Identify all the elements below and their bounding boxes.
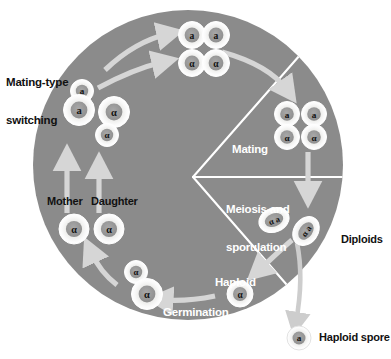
svg-text:a: a <box>312 110 317 120</box>
label-haploid-spore-legend: Haploid spore <box>319 331 390 343</box>
label-diploids: Diploids <box>341 233 383 245</box>
svg-text:α: α <box>104 130 109 140</box>
cell-pair1-alpha: α <box>275 125 300 150</box>
cell-mother: α <box>59 214 89 244</box>
svg-text:α: α <box>71 224 77 235</box>
label-haploid-spore-inner-line1: Haploid <box>215 276 256 289</box>
svg-text:α: α <box>284 133 290 143</box>
arrow-diploid-to-legend-spore <box>296 243 300 322</box>
label-mating-type-switching: Mating-type switching <box>6 50 68 140</box>
cell-germ-mother-alpha: α <box>132 279 163 310</box>
cell-pair1-a: a <box>275 102 300 127</box>
cell-grid-alpha-left: α <box>179 50 206 77</box>
cell-daughter: α <box>94 214 124 244</box>
cell-grid-a-left: a <box>179 22 206 49</box>
svg-text:a: a <box>285 110 290 120</box>
svg-text:α: α <box>311 133 317 143</box>
svg-text:α: α <box>189 58 195 69</box>
cell-bud-alpha-bottom: α <box>96 124 119 147</box>
label-mating-type-switching-line2: switching <box>6 114 68 127</box>
svg-text:α: α <box>144 289 150 300</box>
cell-legend-haploid-spore: a <box>287 326 311 350</box>
label-meiosis-line1: Meiosis and <box>226 203 290 216</box>
cell-grid-alpha-right: α <box>203 50 230 77</box>
svg-text:α: α <box>111 107 117 118</box>
cell-pair2-a: a <box>302 102 327 127</box>
label-haploid-spore-inner: Haploid spore <box>215 250 256 340</box>
label-mating-type-switching-line1: Mating-type <box>6 76 68 89</box>
svg-text:a: a <box>76 105 82 116</box>
cell-mother-alpha: α <box>99 97 130 128</box>
svg-text:α: α <box>106 224 112 235</box>
label-mating: Mating <box>232 143 268 156</box>
svg-text:α: α <box>134 267 139 277</box>
label-germination: Germination <box>163 306 229 319</box>
label-daughter: Daughter <box>91 195 138 207</box>
svg-text:a: a <box>190 30 195 41</box>
svg-text:a: a <box>214 30 219 41</box>
cell-pair2-alpha: α <box>302 125 327 150</box>
cell-grid-a-right: a <box>203 22 230 49</box>
label-mother: Mother <box>47 195 82 207</box>
svg-text:a: a <box>297 333 302 343</box>
svg-text:α: α <box>213 58 219 69</box>
